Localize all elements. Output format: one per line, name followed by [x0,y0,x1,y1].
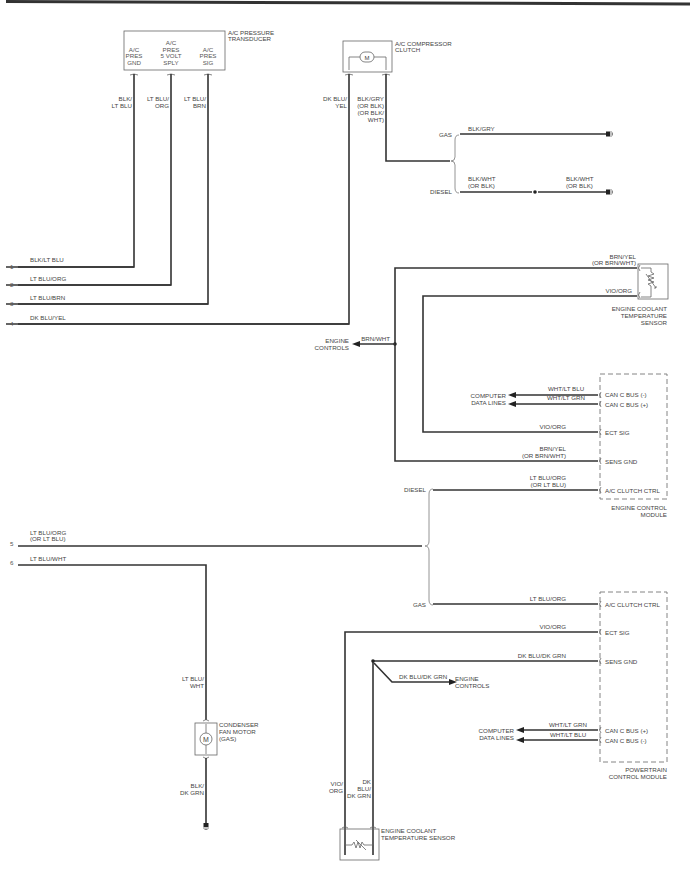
pcm-pin: SENS GND [605,658,638,665]
arrow-left-icon [352,341,360,347]
engine-controls-label: ENGINE [455,675,479,682]
splice-icon [371,659,375,663]
ac-pressure-transducer[interactable]: A/C PRESSURE TRANSDUCER A/C PRES GND A/C… [124,29,274,75]
wire-label: BLU/ [357,785,371,792]
wire-label: LT BLU/ [184,95,206,102]
pin-number: 5 [10,540,14,547]
arrow-left-icon [508,401,516,407]
data-lines-label: COMPUTER [471,392,507,399]
engine-controls-label: ENGINE [325,337,349,344]
pin-label: PRES [200,52,217,59]
engine-controls-label: CONTROLS [455,682,489,689]
wire-label: WHT/LT GRN [547,394,585,401]
condenser-fan-motor[interactable]: M CONDENSER FAN MOTOR (GAS) [195,720,259,759]
wire-label: DK GRN [347,792,371,799]
ect-sensor-bottom[interactable]: ENGINE COOLANT TEMPERATURE SENSOR [340,827,456,861]
wire-label: BRN [193,102,206,109]
wire-fan-feed[interactable] [18,565,206,720]
wire-ect-bottom-signal[interactable] [345,632,598,855]
ecm-pin: CAN C BUS (-) [605,391,647,398]
ect-sensor-top[interactable]: ENGINE COOLANT TEMPERATURE SENSOR [612,264,668,326]
data-lines-label: DATA LINES [479,734,514,741]
wire-label: BRN/YEL [540,445,567,452]
pin-number: 2 [10,281,14,288]
wire-label: DK GRN [180,789,204,796]
wire-label: VIO/ORG [540,423,567,430]
wire-label: BLK/ [191,782,205,789]
wire-label: WHT/LT BLU [548,385,584,392]
pin-number: 6 [10,559,14,566]
ecm-pin: CAN C BUS (+) [605,401,648,408]
arrow-left-icon [516,727,524,733]
pin-number: 4 [10,320,14,327]
wire-label: BLK/WHT [468,175,496,182]
wire-ect-top-signal[interactable] [423,296,637,432]
variant-label-gas: GAS [413,601,426,608]
wire-label: BLK/WHT [566,175,594,182]
wire-ect-bottom-ground[interactable] [373,661,598,855]
arrow-left-icon [516,737,524,743]
pcm-title: CONTROL MODULE [609,773,667,780]
wire-label: ORG [329,787,343,794]
wire-label: (OR BLK/ [358,109,385,116]
powertrain-control-module[interactable]: A/C CLUTCH CTRL ECT SIG SENS GND CAN C B… [600,592,668,780]
terminal-icon [345,74,390,75]
wiring-diagram: A/C PRESSURE TRANSDUCER A/C PRES GND A/C… [0,0,697,885]
transducer-title: TRANSDUCER [228,35,272,42]
motor-icon: M [365,55,370,61]
pcm-pin: A/C CLUTCH CTRL [605,601,661,608]
terminal-icon [639,265,641,298]
ac-compressor-clutch[interactable]: M A/C COMPRESSOR CLUTCH [343,40,452,75]
ect-top-title: ENGINE COOLANT [612,305,668,312]
wire-label: (OR LT BLU) [30,535,66,542]
wire-label: BLK/LT BLU [30,256,64,263]
wire-label: BLK/GRY [357,95,384,102]
wire-transducer-5v[interactable] [6,74,171,285]
data-lines-label: COMPUTER [479,727,515,734]
wire-label: WHT/LT BLU [550,731,586,738]
wire-label: (OR BRN/WHT) [522,452,566,459]
fan-title: CONDENSER [219,721,259,728]
wire-label: VIO/ORG [606,287,633,294]
variant-label-gas: GAS [439,131,452,138]
wire-label: (OR LT BLU) [530,481,566,488]
wire-label: LT BLU/ [147,95,169,102]
ecm-pin: ECT SIG [605,429,630,436]
wire-label: (OR BLK) [468,182,495,189]
ground-icon [203,823,209,830]
pin-label: PRES [126,52,143,59]
wire-label: BLK/GRY [468,125,495,132]
pin-number: 1 [10,263,14,270]
wire-label: LT BLU/ORG [530,474,566,481]
pcm-pin: ECT SIG [605,629,630,636]
pin-label: 5 VOLT [161,52,182,59]
fan-title: FAN MOTOR [219,728,256,735]
arrow-left-icon [508,392,516,398]
wire-label: BRN/WHT [361,335,390,342]
wire-label: WHT [190,682,204,689]
variant-label-diesel: DIESEL [430,188,453,195]
engine-controls-label: CONTROLS [315,344,349,351]
ect-bottom-title: TEMPERATURE SENSOR [381,834,456,841]
wire-label: LT BLU/BRN [30,294,65,301]
wire-clutch-feed[interactable] [6,74,349,324]
wire-label: DK BLU/DK GRN [518,652,566,659]
top-border [6,2,690,5]
pin-label: SPLY [163,59,178,66]
pin-label: GND [127,59,141,66]
wire-label: LT BLU/WHT [30,555,66,562]
clutch-title: CLUTCH [395,46,420,53]
pin-label: SIG [203,59,214,66]
wire-label: DK BLU/YEL [30,314,66,321]
wire-label: LT BLU/ [182,675,204,682]
wire-label: LT BLU [112,102,132,109]
engine-control-module[interactable]: CAN C BUS (-) CAN C BUS (+) ECT SIG SENS… [600,374,668,518]
fan-title: (GAS) [219,735,236,742]
ect-bottom-title: ENGINE COOLANT [381,827,437,834]
pcm-pin: CAN C BUS (+) [605,727,648,734]
wire-clutch-ground[interactable] [386,74,450,161]
variant-label-diesel: DIESEL [404,486,427,493]
wire-transducer-sig[interactable] [6,74,208,304]
pin-label: A/C [166,39,177,46]
wire-label: (OR BRN/WHT) [592,259,636,266]
